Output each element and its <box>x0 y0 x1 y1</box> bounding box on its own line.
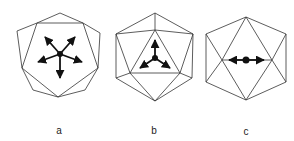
figure-c-linear-diagram <box>206 17 286 100</box>
edge-line <box>155 78 192 101</box>
edge-line <box>180 34 193 73</box>
edge-line <box>206 17 246 34</box>
edge-line <box>17 23 37 31</box>
edge-line <box>22 68 33 90</box>
edge-line <box>116 34 130 73</box>
edge-line <box>206 60 222 82</box>
edge-line <box>22 23 37 68</box>
arrow-icon <box>45 37 60 54</box>
edge-line <box>206 34 222 60</box>
edge-line <box>116 73 130 78</box>
edge-line <box>85 68 98 90</box>
diagram-canvas <box>0 0 294 141</box>
arrow-icon <box>38 54 60 62</box>
figure-a-label: a <box>56 125 62 136</box>
edge-line <box>37 13 60 23</box>
edge-line <box>222 17 246 60</box>
edge-line <box>192 34 193 78</box>
edge-line <box>83 23 98 68</box>
center-node <box>243 57 250 64</box>
edge-line <box>116 78 155 101</box>
edge-line <box>58 68 98 97</box>
edge-line <box>58 90 85 97</box>
center-node <box>152 55 158 61</box>
arrow-icon <box>60 54 82 62</box>
edge-line <box>98 33 100 68</box>
edge-line <box>272 34 286 60</box>
edge-line <box>22 68 58 97</box>
edge-line <box>155 73 180 101</box>
figure-b-triangular-diagram <box>116 13 193 101</box>
edge-line <box>60 13 83 23</box>
arrow-icon <box>60 37 75 54</box>
edge-line <box>246 17 272 60</box>
edge-line <box>272 60 286 82</box>
edge-line <box>246 17 286 34</box>
figure-a-pentagonal-diagram <box>17 13 100 97</box>
edge-line <box>180 73 192 78</box>
edge-line <box>222 60 246 100</box>
center-node <box>57 51 63 57</box>
edge-line <box>17 31 22 68</box>
figure-c-label: c <box>244 126 249 137</box>
edge-line <box>206 82 246 100</box>
edge-line <box>130 73 155 101</box>
figure-b-label: b <box>151 125 157 136</box>
